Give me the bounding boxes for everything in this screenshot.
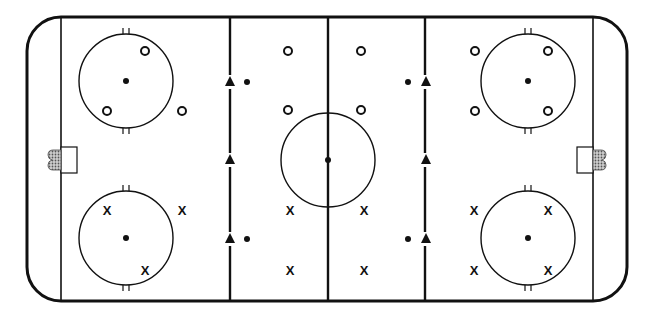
faceoff-circle-dot [123,78,129,84]
player-x-icon: X [544,263,553,278]
player-x-icon: X [178,203,187,218]
faceoff-circle-dot [525,235,531,241]
player-x-icon: X [544,203,553,218]
player-x-icon: X [141,263,150,278]
player-x-icon: X [470,263,479,278]
faceoff-dot [405,236,411,242]
player-x-icon: X [360,203,369,218]
player-x-icon: X [286,203,295,218]
player-x-icon: X [360,263,369,278]
faceoff-dot [244,79,250,85]
hockey-rink-diagram: XXXXXXXXXXX [0,0,650,320]
player-x-icon: X [286,263,295,278]
goal-crease [577,147,593,173]
player-x-icon: X [103,203,112,218]
faceoff-dot [405,79,411,85]
faceoff-dot [244,236,250,242]
center-dot [325,157,331,163]
faceoff-circle-dot [525,78,531,84]
player-x-icon: X [470,203,479,218]
goal-crease [61,147,77,173]
faceoff-circle-dot [123,235,129,241]
